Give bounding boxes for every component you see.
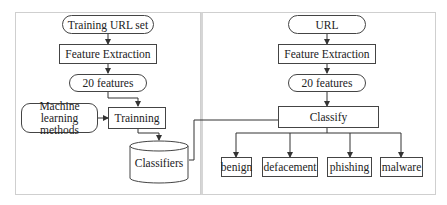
classifiers-label: Classifiers [130, 151, 188, 175]
ml-methods-node: Machine learning methods [21, 103, 98, 133]
features-node-right: 20 features [288, 74, 366, 92]
feature-extraction-node-right: Feature Extraction [278, 44, 376, 64]
feature-extraction-node-left: Feature Extraction [59, 44, 157, 64]
output-defacement: defacement [262, 157, 318, 177]
features-node-left: 20 features [69, 74, 147, 92]
classify-node: Classify [278, 106, 379, 128]
output-benign: benign [221, 157, 252, 177]
url-node: URL [288, 15, 366, 34]
training-node: Trainning [108, 107, 166, 129]
training-url-set-node: Training URL set [62, 15, 154, 34]
output-malware: malware [380, 157, 423, 177]
output-phishing: phishing [327, 157, 372, 177]
